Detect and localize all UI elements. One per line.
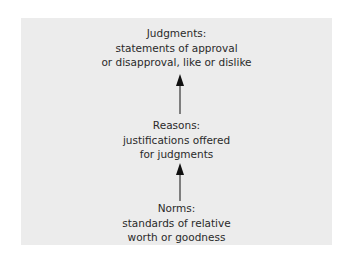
- node-reasons-line-1: justifications offered: [21, 133, 332, 148]
- node-judgments-line-2: or disapproval, like or dislike: [21, 55, 332, 70]
- node-judgments-line-1: statements of approval: [21, 41, 332, 56]
- node-reasons-line-2: for judgments: [21, 147, 332, 162]
- node-norms-title: Norms:: [21, 201, 332, 216]
- node-norms: Norms: standards of relative worth or go…: [21, 201, 332, 245]
- node-judgments-title: Judgments:: [21, 26, 332, 41]
- node-reasons-title: Reasons:: [21, 118, 332, 133]
- node-norms-line-2: worth or goodness: [21, 230, 332, 245]
- node-judgments: Judgments: statements of approval or dis…: [21, 26, 332, 70]
- node-norms-line-1: standards of relative: [21, 216, 332, 231]
- arrow-reasons-to-judgments-icon: [175, 74, 185, 114]
- arrow-norms-to-reasons-icon: [175, 163, 185, 201]
- node-reasons: Reasons: justifications offered for judg…: [21, 118, 332, 162]
- diagram-panel: Judgments: statements of approval or dis…: [21, 18, 332, 245]
